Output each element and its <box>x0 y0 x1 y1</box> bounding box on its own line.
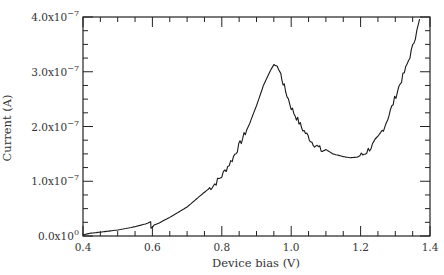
y-tick-label: 0.0x100 <box>38 228 79 242</box>
x-tick-label: 0.8 <box>213 241 230 253</box>
y-tick-labels: 0.0x1001.0x10−72.0x10−73.0x10−74.0x10−7 <box>31 9 79 242</box>
x-tick-label: 0.6 <box>144 241 161 253</box>
x-tick-label: 1.2 <box>352 241 369 253</box>
x-tick-label: 0.4 <box>75 241 92 253</box>
x-tick-label: 1.4 <box>422 241 439 253</box>
x-tick-label: 1.0 <box>283 241 300 253</box>
y-axis-label: Current (A) <box>0 95 14 162</box>
iv-chart: 0.40.60.81.01.21.4 0.0x1001.0x10−72.0x10… <box>0 0 444 275</box>
x-axis-label: Device bias (V) <box>212 256 300 270</box>
y-tick-label: 2.0x10−7 <box>31 119 79 133</box>
y-tick-label: 4.0x10−7 <box>31 9 79 23</box>
y-tick-label: 1.0x10−7 <box>31 173 79 187</box>
axis-ticks <box>83 17 430 236</box>
x-tick-labels: 0.40.60.81.01.21.4 <box>75 241 439 253</box>
iv-curve-line <box>83 19 420 235</box>
plot-frame <box>83 17 430 236</box>
y-tick-label: 3.0x10−7 <box>31 64 79 78</box>
